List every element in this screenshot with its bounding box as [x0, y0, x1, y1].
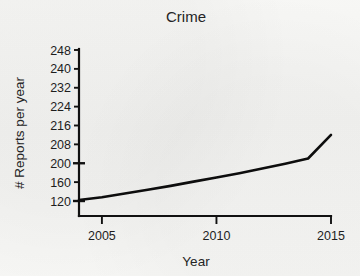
y-tick-label: 200	[50, 157, 71, 171]
x-tick-marks	[102, 216, 331, 224]
y-axis-title: # Reports per year	[12, 77, 27, 189]
data-series-line	[79, 135, 331, 200]
x-tick-label: 2015	[317, 229, 345, 243]
y-tick-label: 208	[50, 138, 71, 152]
y-tick-label: 248	[50, 44, 71, 58]
chart-svg: Crime # Reports per year Year 1201602002…	[0, 0, 360, 276]
y-tick-label: 232	[50, 81, 71, 95]
crime-line-chart: Crime # Reports per year Year 1201602002…	[0, 0, 360, 276]
chart-title: Crime	[166, 8, 206, 25]
page-background: Crime # Reports per year Year 1201602002…	[0, 0, 360, 276]
x-axis-title: Year	[182, 254, 210, 269]
y-tick-label: 240	[50, 62, 71, 76]
y-tick-label: 216	[50, 119, 71, 133]
x-tick-label: 2010	[203, 229, 231, 243]
y-tick-label: 224	[50, 100, 71, 114]
x-tick-label: 2005	[88, 229, 116, 243]
y-tick-label: 120	[50, 195, 71, 209]
y-tick-labels: 120160200208216224232240248	[50, 44, 71, 209]
y-tick-label: 160	[50, 176, 71, 190]
x-tick-labels: 200520102015	[88, 229, 345, 243]
